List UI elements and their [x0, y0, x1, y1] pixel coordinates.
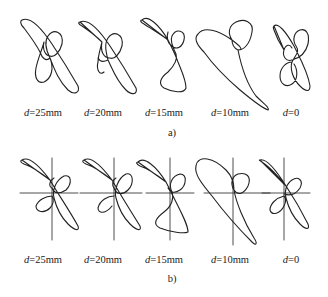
curve-a-d20: [79, 21, 137, 93]
label-a-d15: d=15mm: [145, 107, 183, 118]
label-b-d20: d=20mm: [84, 254, 122, 265]
label-a-d10: d=10mm: [211, 107, 249, 118]
label-b-d15: d=15mm: [145, 254, 183, 265]
label-b-d0: d=0: [283, 254, 299, 265]
caption-b: b): [168, 273, 177, 284]
label-a-d0: d=0: [283, 107, 299, 118]
curve-b-d20: [83, 159, 141, 230]
figure-canvas: [0, 0, 328, 297]
label-b-d10: d=10mm: [211, 254, 249, 265]
caption-a: a): [168, 127, 176, 138]
curve-a-d25: [21, 19, 79, 93]
curve-b-d10: [196, 159, 256, 244]
curve-b-d25: [21, 159, 79, 230]
curve-b-d15: [137, 160, 188, 233]
curve-a-d0: [273, 25, 310, 90]
label-b-d25: d=25mm: [24, 254, 62, 265]
curve-a-d15: [141, 18, 186, 91]
curve-a-d10: [196, 20, 268, 110]
label-a-d25: d=25mm: [24, 107, 62, 118]
label-a-d20: d=20mm: [84, 107, 122, 118]
